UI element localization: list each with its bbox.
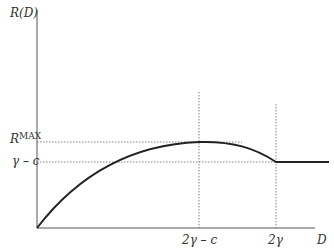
rmax-tick-label: RMAX	[10, 131, 41, 146]
gamma-minus-c-tick-label: γ – c	[12, 154, 40, 168]
y-axis-label: R(D)	[10, 6, 38, 20]
rmax-base: R	[10, 132, 19, 146]
x-axis-label: D	[317, 233, 327, 247]
rmax-sup: MAX	[19, 131, 41, 141]
x-tick-2gamma: 2γ	[268, 233, 283, 247]
chart-canvas	[0, 0, 334, 250]
r-of-d-curve	[37, 142, 329, 228]
x-tick-2gamma-minus-c: 2γ – c	[182, 233, 217, 247]
